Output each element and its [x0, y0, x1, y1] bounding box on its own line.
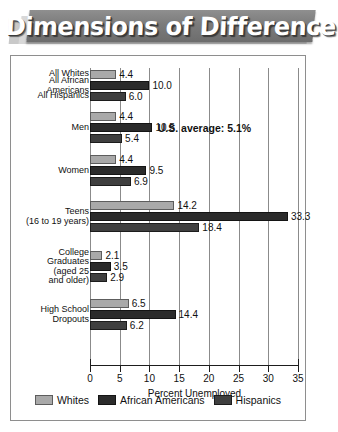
tick-label-35: 35	[292, 373, 303, 384]
tick-30	[268, 366, 269, 372]
legend-item: Whites	[35, 394, 89, 406]
category-label: Women	[58, 166, 89, 176]
tick-label-0: 0	[87, 373, 93, 384]
title-banner: Dimensions of Difference	[0, 4, 320, 50]
category-label: Men	[71, 123, 89, 133]
tick-35	[298, 366, 299, 372]
chart-legend: WhitesAfrican AmericansHispanics	[10, 390, 306, 410]
chart-title-text: Dimensions of Difference	[5, 12, 337, 41]
legend-swatch	[35, 395, 53, 405]
tick-15	[179, 366, 180, 372]
category-label: All Hispanics	[37, 91, 89, 101]
legend-item: African Americans	[98, 394, 205, 406]
x-axis-left-cap	[90, 359, 91, 366]
category-labels: All WhitesAll African AmericansAll Hispa…	[11, 68, 307, 368]
x-axis-right-cap	[298, 359, 299, 366]
tick-label-25: 25	[233, 373, 244, 384]
tick-10	[149, 366, 150, 372]
tick-label-5: 5	[117, 373, 123, 384]
legend-swatch	[98, 395, 116, 405]
category-label: Teens (16 to 19 years)	[26, 207, 89, 226]
tick-label-20: 20	[203, 373, 214, 384]
tick-0	[90, 366, 91, 372]
tick-5	[120, 366, 121, 372]
chart-title: Dimensions of Difference	[26, 10, 315, 42]
category-label: High School Dropouts	[40, 305, 89, 324]
legend-swatch	[214, 395, 232, 405]
tick-20	[209, 366, 210, 372]
legend-item: Hispanics	[214, 394, 282, 406]
tick-25	[239, 366, 240, 372]
tick-label-15: 15	[174, 373, 185, 384]
tick-label-10: 10	[144, 373, 155, 384]
legend-label: Hispanics	[236, 394, 282, 406]
tick-label-30: 30	[263, 373, 274, 384]
legend-label: African Americans	[120, 394, 205, 406]
legend-label: Whites	[57, 394, 89, 406]
category-label: College Graduates (aged 25 and older)	[47, 248, 89, 286]
chart-frame: 4.410.06.04.410.55.44.49.56.914.233.318.…	[10, 55, 306, 421]
